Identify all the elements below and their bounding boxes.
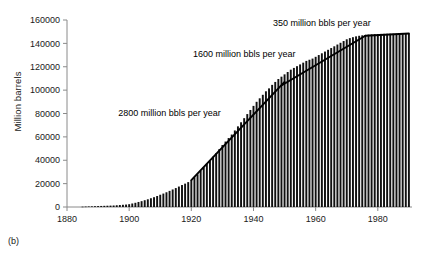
bar <box>374 34 376 207</box>
bar <box>134 203 136 207</box>
x-axis-ticks: 188019001920194019601980 <box>57 207 388 224</box>
bar <box>178 187 180 207</box>
bar <box>290 70 292 207</box>
bar <box>259 98 261 207</box>
bar <box>172 189 174 207</box>
bar <box>399 34 401 207</box>
bar <box>305 61 307 207</box>
bar <box>156 196 158 207</box>
bar <box>358 36 360 207</box>
y-tick-label: 20000 <box>35 179 60 189</box>
bar <box>159 195 161 207</box>
bar <box>150 198 152 207</box>
bar <box>318 55 320 207</box>
bar <box>405 34 407 207</box>
bar <box>327 50 329 207</box>
bar <box>296 66 298 207</box>
bar <box>141 201 143 207</box>
bar <box>249 110 251 207</box>
figure-caption: (b) <box>8 236 19 246</box>
bar <box>352 37 354 207</box>
bar <box>206 164 208 207</box>
x-tick-label: 1960 <box>306 214 326 224</box>
bar <box>231 135 233 207</box>
bar <box>240 122 242 207</box>
bar <box>386 34 388 207</box>
y-tick-label: 0 <box>55 202 60 212</box>
bar <box>380 34 382 207</box>
bar <box>355 36 357 207</box>
figure-panel-b: Million barrels 020000400006000080000100… <box>0 0 425 267</box>
bar <box>184 184 186 207</box>
bar <box>128 204 130 207</box>
bar <box>383 34 385 207</box>
bar <box>138 202 140 207</box>
bar <box>361 35 363 207</box>
bar <box>237 126 239 207</box>
bar <box>106 206 108 207</box>
bar <box>253 106 255 207</box>
bar <box>277 79 279 207</box>
y-tick-label: 60000 <box>35 132 60 142</box>
bar <box>333 46 335 207</box>
bar <box>308 60 310 207</box>
x-tick-label: 1940 <box>243 214 263 224</box>
bar <box>203 167 205 207</box>
bar <box>402 34 404 207</box>
bar <box>181 185 183 207</box>
bar <box>234 130 236 207</box>
bar <box>218 149 220 207</box>
bar <box>302 63 304 207</box>
bar <box>215 153 217 207</box>
bar <box>271 85 273 207</box>
bar <box>100 206 102 207</box>
bar <box>284 74 286 207</box>
bar <box>368 35 370 207</box>
bar <box>97 206 99 207</box>
bar <box>166 192 168 207</box>
bar <box>324 52 326 207</box>
y-tick-label: 140000 <box>30 39 60 49</box>
bar <box>396 34 398 207</box>
bar <box>116 205 118 207</box>
bar <box>153 197 155 207</box>
bar <box>82 207 84 208</box>
bar <box>408 34 410 207</box>
bar <box>274 82 276 207</box>
y-tick-label: 40000 <box>35 155 60 165</box>
bar <box>243 118 245 207</box>
bar <box>287 72 289 207</box>
bar <box>346 39 348 207</box>
x-tick-label: 1900 <box>119 214 139 224</box>
y-tick-label: 120000 <box>30 62 60 72</box>
y-tick-label: 80000 <box>35 109 60 119</box>
bar <box>349 38 351 207</box>
annotation-labels: 2800 million bbls per year1600 million b… <box>118 18 370 118</box>
bar <box>144 200 146 207</box>
y-axis-ticks: 0200004000060000800001000001200001400001… <box>30 15 67 212</box>
bar <box>265 91 267 207</box>
bar <box>281 77 283 207</box>
bar <box>246 114 248 207</box>
bar <box>262 95 264 207</box>
bar <box>228 138 230 207</box>
bar <box>85 207 87 208</box>
bar <box>197 174 199 207</box>
bar <box>299 64 301 207</box>
bar <box>389 34 391 207</box>
bar <box>147 199 149 207</box>
bar <box>119 205 121 207</box>
bar <box>312 59 314 207</box>
bar <box>330 48 332 207</box>
bar <box>187 182 189 207</box>
bar <box>110 206 112 207</box>
bar <box>256 102 258 207</box>
bar <box>175 188 177 207</box>
annotation-label: 350 million bbls per year <box>273 18 371 28</box>
bar <box>193 177 195 207</box>
bar <box>91 206 93 207</box>
bar <box>225 142 227 207</box>
bar <box>122 205 124 207</box>
bar <box>377 34 379 207</box>
bar <box>392 34 394 207</box>
